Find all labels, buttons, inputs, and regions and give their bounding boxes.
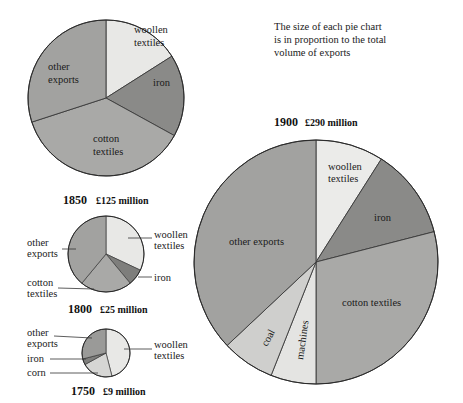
leader-1750-other — [54, 336, 92, 338]
label-1750-corn: corn — [27, 367, 46, 378]
caption-1800-year: 1800 — [68, 302, 92, 316]
label-1800-cotton-2: textiles — [27, 288, 57, 299]
label-1850-other-1: other — [48, 61, 70, 72]
caption-1850-year: 1850 — [63, 193, 87, 207]
label-1900-woollen-1: woollen — [328, 161, 363, 172]
label-1850-iron: iron — [153, 77, 171, 88]
label-1900-other: other exports — [229, 236, 284, 247]
pie-1900 — [194, 140, 438, 384]
label-1900-iron: iron — [374, 212, 392, 223]
label-1800-woollen-1: woollen — [154, 229, 189, 240]
label-1800-woollen-2: textiles — [154, 240, 184, 251]
label-1900-woollen-2: textiles — [328, 173, 358, 184]
label-1750-woollen-1: woollen — [154, 339, 189, 350]
label-1850-cotton-1: cotton — [93, 133, 120, 144]
label-1850-woollen-2: textiles — [134, 37, 164, 48]
pie-1750 — [82, 329, 130, 377]
pie-1800 — [68, 216, 144, 292]
caption-1850-total: £125 million — [96, 195, 149, 206]
label-1900-cotton: cotton textiles — [342, 297, 401, 308]
label-1750-iron: iron — [27, 353, 45, 364]
caption-1900-year: 1900 — [274, 115, 298, 129]
caption-1750-total: £9 million — [103, 386, 146, 397]
caption-1750-year: 1750 — [71, 384, 95, 398]
label-1850-other-2: exports — [48, 74, 79, 85]
label-1750-other-2: exports — [27, 338, 58, 349]
caption-1800-total: £25 million — [100, 304, 148, 315]
label-1800-cotton-1: cotton — [27, 277, 54, 288]
label-1850-woollen-1: woollen — [134, 24, 169, 35]
label-1800-other-2: exports — [27, 248, 58, 259]
label-1750-other-1: other — [27, 327, 49, 338]
label-1850-cotton-2: textiles — [93, 146, 123, 157]
export-pie-charts: woollen textiles iron other exports cott… — [0, 0, 463, 403]
label-1800-other-1: other — [27, 237, 49, 248]
label-1750-woollen-2: textiles — [154, 350, 184, 361]
caption-1900-total: £290 million — [305, 117, 358, 128]
label-1800-iron: iron — [154, 272, 172, 283]
